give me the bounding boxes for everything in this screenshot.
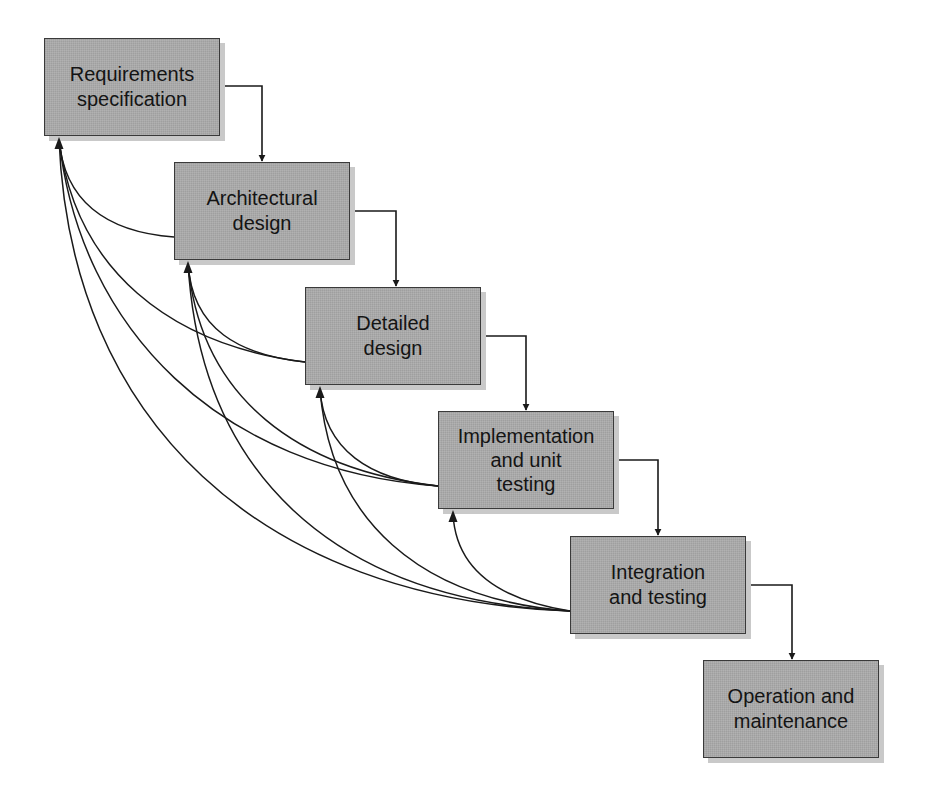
feedback-curve-integration-to-implementation <box>453 514 570 611</box>
stage-detailed-design: Detailed design <box>305 287 481 385</box>
forward-arrow-implementation-to-integration <box>614 460 658 535</box>
stage-label: Detailed design <box>352 311 433 361</box>
forward-arrow-detailed-to-implementation <box>482 336 526 410</box>
waterfall-diagram: Requirements specification Architectural… <box>0 0 930 805</box>
stage-label: Operation and maintenance <box>724 684 859 734</box>
forward-arrow-integration-to-operation <box>747 585 792 659</box>
stage-label: Requirements specification <box>66 62 199 112</box>
stage-label: Integration and testing <box>605 560 711 610</box>
forward-arrow-architectural-to-detailed <box>350 211 396 286</box>
stage-label: Architectural design <box>202 186 321 236</box>
stage-operation-and-maintenance: Operation and maintenance <box>703 660 879 758</box>
stage-label: Implementation and unit testing <box>454 424 599 496</box>
stage-architectural-design: Architectural design <box>174 162 350 260</box>
stage-integration-and-testing: Integration and testing <box>570 536 746 634</box>
forward-arrow-requirements-to-architectural <box>218 86 262 161</box>
stage-requirements-specification: Requirements specification <box>44 38 220 136</box>
stage-implementation-and-unit-testing: Implementation and unit testing <box>438 411 614 509</box>
feedback-curve-detailed-to-architectural <box>188 263 305 362</box>
feedback-curve-implementation-to-detailed <box>320 389 438 486</box>
